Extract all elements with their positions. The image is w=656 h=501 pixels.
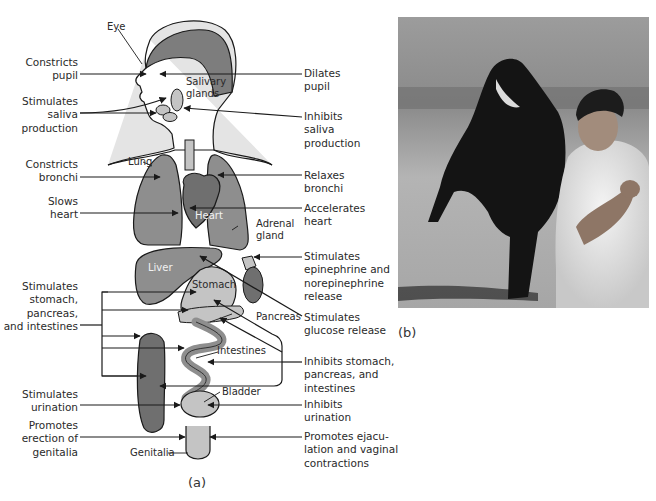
- effect-inhibits-urination: Inhibits urination: [304, 398, 351, 425]
- effect-constricts-pupil: Constricts pupil: [25, 56, 78, 83]
- effect-constricts-bronchi: Constricts bronchi: [25, 158, 78, 185]
- effect-dilates-pupil: Dilates pupil: [304, 67, 340, 94]
- organ-label-liver: Liver: [148, 262, 173, 274]
- organ-label-stomach: Stomach: [192, 279, 236, 291]
- organ-label-salivary-glands: Salivary glands: [186, 76, 226, 100]
- autonomic-nervous-system-figure: Eye Salivary glands Lung Heart Adrenal g…: [0, 0, 656, 501]
- effect-stimulates-urination: Stimulates urination: [22, 388, 78, 415]
- effect-stimulates-adrenal: Stimulates epinephrine and norepinephrin…: [304, 250, 390, 303]
- organ-label-eye: Eye: [107, 21, 125, 33]
- trachea-shape: [185, 140, 194, 170]
- organ-label-adrenal-gland: Adrenal gland: [256, 218, 294, 242]
- organ-label-heart: Heart: [195, 210, 223, 222]
- adrenal-kidney-shape: [242, 256, 263, 303]
- organ-label-genitalia: Genitalia: [130, 447, 175, 459]
- effect-promotes-ejaculation: Promotes ejacu- lation and vaginal contr…: [304, 430, 398, 470]
- salivary-glands-shape: [156, 89, 183, 122]
- effect-relaxes-bronchi: Relaxes bronchi: [304, 169, 344, 196]
- effect-inhibits-digestion: Inhibits stomach, pancreas, and intestin…: [304, 355, 394, 395]
- effect-promotes-erection: Promotes erection of genitalia: [22, 419, 78, 459]
- effect-slows-heart: Slows heart: [48, 195, 78, 222]
- effect-stimulates-glucose: Stimulates glucose release: [304, 311, 386, 338]
- panel-b-caption: (b): [398, 325, 416, 340]
- genitalia-shape: [186, 426, 210, 459]
- panel-a-caption: (a): [188, 475, 206, 490]
- effect-inhibits-saliva: Inhibits saliva production: [304, 110, 360, 150]
- organ-label-bladder: Bladder: [222, 386, 261, 398]
- effect-accelerates-heart: Accelerates heart: [304, 202, 365, 229]
- bull-chase-photograph: [398, 17, 649, 308]
- effect-stimulates-saliva: Stimulates saliva production: [22, 95, 78, 135]
- effect-stimulates-digestion: Stimulates stomach, pancreas, and intest…: [4, 280, 78, 333]
- organ-label-pancreas: Pancreas: [256, 311, 301, 323]
- bladder-shape: [181, 391, 219, 417]
- organ-label-intestines: Intestines: [217, 345, 266, 357]
- organ-label-lung: Lung: [128, 156, 152, 168]
